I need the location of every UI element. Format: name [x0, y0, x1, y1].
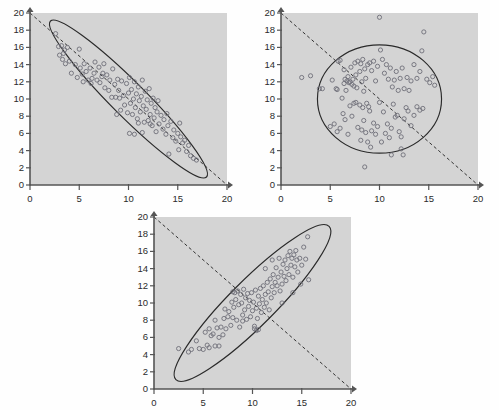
- plot-canvas-panel1: [0, 0, 250, 205]
- data-point: [177, 148, 181, 152]
- y-axis-tick-label: 12: [251, 76, 275, 87]
- x-axis-tick-label: 15: [417, 193, 441, 204]
- data-point: [250, 309, 254, 313]
- data-point: [361, 106, 365, 110]
- y-axis-tick-label: 20: [124, 211, 148, 222]
- data-point: [375, 64, 379, 68]
- data-point: [78, 66, 82, 70]
- y-axis-tick-label: 14: [0, 59, 24, 70]
- data-point: [384, 63, 388, 67]
- data-point: [306, 235, 310, 239]
- y-axis-tick-label: 18: [251, 24, 275, 35]
- data-point: [234, 297, 238, 301]
- data-point: [223, 307, 227, 311]
- data-point: [354, 73, 358, 77]
- data-point: [400, 66, 404, 70]
- data-point: [253, 288, 257, 292]
- data-point: [201, 347, 205, 351]
- data-point: [346, 75, 350, 79]
- data-point: [346, 132, 350, 136]
- y-axis-tick-label: 0: [251, 179, 275, 190]
- data-point: [412, 113, 416, 117]
- data-point: [383, 131, 387, 135]
- x-axis-tick-label: 0: [18, 193, 42, 204]
- data-point: [391, 102, 395, 106]
- y-axis-tick-label: 0: [124, 383, 148, 394]
- data-point: [241, 313, 245, 317]
- data-point: [409, 79, 413, 83]
- x-axis-tick-label: 5: [67, 193, 91, 204]
- data-point: [111, 67, 115, 71]
- data-point: [338, 126, 342, 130]
- data-point: [328, 124, 332, 128]
- data-point: [379, 140, 383, 144]
- y-axis-tick-label: 8: [124, 314, 148, 325]
- y-axis-tick-label: 16: [124, 245, 148, 256]
- data-point: [203, 330, 207, 334]
- data-point: [153, 106, 157, 110]
- data-point: [387, 136, 391, 140]
- data-point: [129, 87, 133, 91]
- x-axis-tick-label: 10: [368, 193, 392, 204]
- data-point: [371, 59, 375, 63]
- y-axis-tick-label: 6: [124, 331, 148, 342]
- data-point: [363, 165, 367, 169]
- data-point: [255, 316, 259, 320]
- data-point: [349, 65, 353, 69]
- data-point: [137, 99, 141, 103]
- data-point: [108, 78, 112, 82]
- x-axis-tick-label: 15: [290, 397, 314, 408]
- panel-negative-correlation: 0246810121416182005101520: [0, 0, 250, 205]
- x-axis-tick-label: 5: [191, 397, 215, 408]
- data-point: [340, 96, 344, 100]
- data-point: [262, 305, 266, 309]
- data-point: [248, 315, 252, 319]
- data-point: [97, 65, 101, 69]
- x-axis-tick-label: 15: [166, 193, 190, 204]
- y-axis-tick-label: 10: [0, 93, 24, 104]
- x-axis-tick-label: 5: [318, 193, 342, 204]
- data-point: [371, 121, 375, 125]
- data-point: [300, 75, 304, 79]
- data-point: [139, 94, 143, 98]
- y-axis-tick-label: 16: [251, 41, 275, 52]
- data-point: [217, 335, 221, 339]
- data-point: [127, 131, 131, 135]
- panel-positive-correlation: 0246810121416182005101520: [124, 204, 374, 410]
- data-point: [213, 318, 217, 322]
- data-point: [260, 297, 264, 301]
- data-point: [256, 294, 260, 298]
- data-point: [431, 75, 435, 79]
- data-point: [279, 270, 283, 274]
- data-point: [119, 108, 123, 112]
- data-point: [177, 346, 181, 350]
- data-point: [241, 319, 245, 323]
- data-point: [147, 87, 151, 91]
- data-point: [348, 104, 352, 108]
- data-point: [284, 279, 288, 283]
- data-point: [320, 87, 324, 91]
- data-point: [88, 66, 92, 70]
- data-point: [396, 88, 400, 92]
- data-point: [133, 106, 137, 110]
- data-point: [272, 291, 276, 295]
- data-point: [249, 291, 253, 295]
- data-point: [398, 76, 402, 80]
- y-axis-arrow: [151, 211, 158, 216]
- y-axis-tick-label: 16: [0, 41, 24, 52]
- y-axis-tick-label: 2: [124, 366, 148, 377]
- data-point: [159, 113, 163, 117]
- data-point: [155, 110, 159, 114]
- data-point: [118, 96, 122, 100]
- data-point: [128, 101, 132, 105]
- data-point: [394, 69, 398, 73]
- y-axis-arrow: [27, 7, 34, 12]
- data-point: [229, 323, 233, 327]
- data-point: [226, 315, 230, 319]
- data-point: [293, 265, 297, 269]
- data-point: [304, 257, 308, 261]
- data-point: [362, 89, 366, 93]
- data-point: [375, 124, 379, 128]
- reference-line: [154, 217, 351, 389]
- data-point: [263, 267, 267, 271]
